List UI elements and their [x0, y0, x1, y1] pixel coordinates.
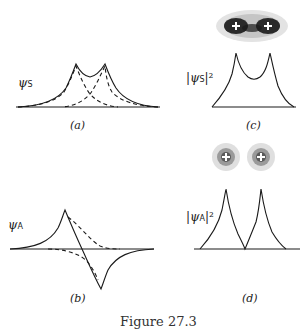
figure-caption: Figure 27.3 [120, 314, 197, 329]
label-psi-s-squared: |ψS|² [186, 71, 213, 85]
label-psi-s: ψS [18, 76, 33, 90]
panel-a-plot [16, 64, 160, 107]
orbital-left-dashed-b [68, 217, 120, 249]
panel-b-plot [10, 210, 154, 289]
label-psi-s-sq-symbol: |ψ [186, 71, 199, 85]
caption-c: (c) [246, 119, 261, 132]
label-psi-s-sq-suffix: |² [205, 71, 214, 85]
caption-b: (b) [70, 292, 86, 305]
orbital-left-dashed [18, 66, 118, 107]
label-psi-s-symbol: ψ [18, 76, 27, 90]
curve-psi-s-squared [212, 53, 294, 107]
label-psi-a: ψA [8, 218, 23, 232]
orbital-right-dashed [62, 66, 158, 107]
label-psi-a-subscript: A [17, 222, 22, 231]
cloud-c [216, 10, 288, 42]
label-psi-a-symbol: ψ [8, 218, 17, 232]
label-psi-a-sq-symbol: |ψ [186, 210, 199, 224]
curve-psi-s [18, 64, 158, 107]
label-psi-a-sq-suffix: |² [205, 210, 214, 224]
label-psi-s-subscript: S [27, 80, 32, 89]
cloud-d [212, 143, 275, 171]
caption-d: (d) [242, 292, 258, 305]
label-psi-a-squared: |ψA|² [186, 210, 214, 224]
orbital-right-dashed-b [48, 249, 98, 280]
caption-a: (a) [70, 119, 85, 132]
panel-c-plot [212, 53, 296, 107]
